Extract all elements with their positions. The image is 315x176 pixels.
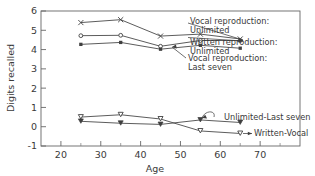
annotation-unlimited-lastseven: Unlimited-Last seven: [224, 112, 310, 122]
annotation-line: Unlimited-Last seven: [224, 112, 310, 122]
plot-frame: [41, 11, 300, 146]
y-axis-title: Digits recalled: [5, 44, 16, 112]
y-tick-label: -1: [28, 140, 37, 151]
x-tick-label: 20: [55, 149, 67, 160]
y-tick-label: 0: [31, 121, 37, 132]
y-tick-label: 4: [31, 44, 37, 55]
y-tick-label: 5: [31, 25, 37, 36]
x-tick-label: 50: [174, 149, 186, 160]
x-tick-labels: 20 30 40 50 60 70: [55, 149, 266, 160]
y-tick-label: 1: [31, 102, 37, 113]
x-axis-title: Age: [146, 163, 165, 174]
annotation-line: Written-Vocal: [254, 128, 308, 138]
y-tick-label: 2: [31, 83, 37, 94]
y-tick-labels: 6 5 4 3 2 1 0 -1: [28, 5, 37, 151]
x-tick-label: 70: [254, 149, 266, 160]
y-axis-ticks: [41, 11, 46, 146]
x-tick-label: 40: [135, 149, 147, 160]
arrowhead-written-vocal: [248, 132, 252, 136]
leader-vocal-lastseven: [172, 47, 186, 58]
annotation-written-vocal: Written-Vocal: [254, 128, 308, 138]
annotation-vocal-lastseven: Vocal reproduction: Last seven: [188, 53, 267, 72]
chart-figure: 6 5 4 3 2 1 0 -1 20: [0, 0, 315, 176]
x-tick-label: 60: [214, 149, 226, 160]
x-tick-label: 30: [95, 149, 107, 160]
annotation-vocal-unlimited: Vocal reproduction: Unlimited: [190, 16, 269, 35]
annotation-line: Last seven: [188, 62, 232, 72]
y-tick-label: 6: [31, 5, 37, 16]
y-tick-label: 3: [31, 63, 37, 74]
annotation-line: Unlimited: [190, 25, 229, 35]
chart-canvas: 6 5 4 3 2 1 0 -1 20: [0, 0, 315, 176]
